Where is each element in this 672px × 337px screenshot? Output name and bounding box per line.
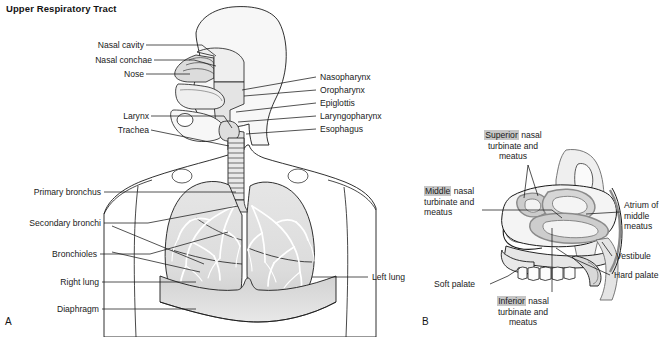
label-laryngopharynx: Laryngopharynx — [320, 111, 382, 122]
middle-rest: nasal — [451, 186, 474, 196]
label-nasal-conchae: Nasal conchae — [0, 55, 152, 66]
highlight-superior: Superior — [484, 130, 518, 140]
label-secondary-bronchi: Secondary bronchi — [0, 218, 101, 229]
highlight-middle: Middle — [424, 186, 451, 196]
inferior-rest: nasal — [526, 296, 549, 306]
label-left-lung: Left lung — [372, 272, 405, 283]
superior-line2: turbinate and — [488, 141, 538, 151]
superior-line3: meatus — [499, 151, 527, 161]
highlight-inferior: Inferior — [497, 296, 526, 306]
label-diaphragm: Diaphragm — [0, 304, 99, 315]
atrium-line1: Atrium of — [624, 200, 658, 210]
panel-b-nasal-sagittal — [501, 150, 622, 301]
superior-rest: nasal — [519, 130, 542, 140]
inferior-line3: meatus — [509, 317, 537, 327]
label-epiglottis: Epiglottis — [320, 98, 355, 109]
panel-letter-b: B — [422, 316, 429, 327]
label-hard-palate: Hard palate — [614, 270, 658, 281]
inferior-line2: turbinate and — [498, 307, 548, 317]
label-bronchioles: Bronchioles — [0, 249, 97, 260]
figure-upper-respiratory-tract: Upper Respiratory Tract — [0, 0, 672, 337]
label-superior-nasal-turbinate: Superior nasal turbinate and meatus — [466, 130, 560, 162]
label-middle-nasal-turbinate: Middle nasal turbinate and meatus — [424, 186, 474, 218]
label-primary-bronchus: Primary bronchus — [0, 187, 101, 198]
label-inferior-nasal-turbinate: Inferior nasal turbinate and meatus — [476, 296, 570, 328]
label-atrium-of-middle-meatus: Atrium of middle meatus — [624, 200, 658, 232]
label-nose: Nose — [0, 69, 144, 80]
panel-letter-a: A — [5, 316, 12, 327]
label-nasal-cavity: Nasal cavity — [0, 40, 144, 51]
middle-line2: turbinate and — [424, 197, 474, 207]
label-trachea: Trachea — [0, 125, 149, 136]
atrium-line2: middle — [624, 211, 649, 221]
label-larynx: Larynx — [0, 111, 149, 122]
label-nasopharynx: Nasopharynx — [320, 72, 371, 83]
label-vestibule: Vestibule — [616, 251, 651, 262]
atrium-line3: meatus — [624, 221, 652, 231]
label-oropharynx: Oropharynx — [320, 85, 365, 96]
label-soft-palate: Soft palate — [434, 279, 475, 290]
label-right-lung: Right lung — [0, 277, 99, 288]
middle-line3: meatus — [424, 207, 452, 217]
label-esophagus: Esophagus — [320, 124, 363, 135]
